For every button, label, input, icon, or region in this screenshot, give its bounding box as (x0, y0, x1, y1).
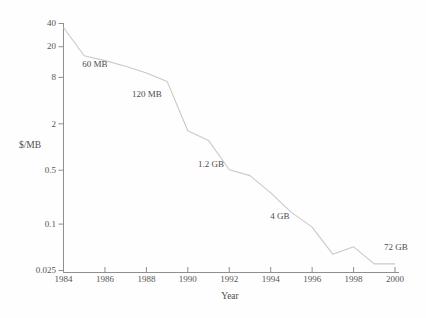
y-tick-label: 0.1 (45, 219, 56, 229)
x-tick-label: 1986 (96, 274, 115, 284)
y-tick-label: 40 (47, 18, 57, 28)
price-curve (64, 28, 396, 264)
x-tick-label: 1998 (345, 274, 364, 284)
price-per-mb-chart: 4020820.50.10.025 1984198619881990199219… (0, 0, 426, 318)
drive-capacity-label: 72 GB (384, 242, 408, 252)
x-tick-label: 1992 (220, 274, 238, 284)
x-tick-label: 1994 (262, 274, 281, 284)
axes (64, 23, 400, 273)
y-tick-label: 2 (52, 119, 57, 129)
x-tick-label: 2000 (386, 274, 405, 284)
drive-capacity-label: 1.2 GB (198, 159, 224, 169)
drive-capacity-label: 60 MB (82, 59, 107, 69)
x-axis-label: Year (221, 291, 239, 301)
y-tick-label: 20 (47, 41, 57, 51)
drive-capacity-label: 120 MB (132, 89, 162, 99)
x-tick-label: 1990 (179, 274, 198, 284)
chart-canvas: 4020820.50.10.025 1984198619881990199219… (0, 0, 426, 318)
x-tick-label: 1988 (137, 274, 156, 284)
x-tick-label: 1984 (55, 274, 74, 284)
y-tick-label: 0.5 (45, 165, 57, 175)
x-axis-ticks: 198419861988199019921994199619982000 (55, 267, 405, 284)
capacity-annotations: 60 MB120 MB1.2 GB4 GB72 GB (82, 59, 408, 252)
x-tick-label: 1996 (303, 274, 322, 284)
y-axis-label: $/MB (19, 140, 41, 150)
y-tick-label: 8 (52, 72, 57, 82)
drive-capacity-label: 4 GB (270, 211, 289, 221)
y-tick-label: 0.025 (36, 265, 57, 275)
